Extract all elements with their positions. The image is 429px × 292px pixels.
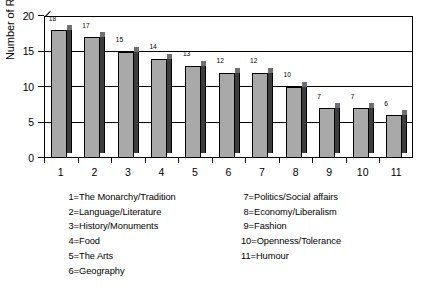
bar-front-face	[386, 115, 402, 158]
bar-top-face	[235, 68, 240, 73]
legend-left-key: 5=	[66, 249, 79, 264]
bar-11[interactable]	[386, 115, 402, 158]
bar-top-face	[268, 68, 273, 73]
chart-legend: 1=The Monarchy/Tradition2=Language/Liter…	[0, 190, 429, 280]
legend-right-key: 11=	[241, 249, 256, 264]
legend-right-key: 9=	[241, 219, 254, 234]
x-tick-label-4: 4	[145, 167, 179, 178]
bar-top-face	[167, 54, 172, 59]
bar-side-face	[402, 110, 407, 153]
legend-left-key: 6=	[66, 264, 79, 279]
bar-8[interactable]	[286, 87, 302, 158]
legend-left-item: 2=Language/Literature	[66, 205, 176, 220]
legend-right-item: 10=Openness/Tolerance	[241, 234, 341, 249]
x-tick-0	[44, 158, 45, 163]
bar-front-face	[84, 37, 100, 158]
y-tick-10	[38, 86, 44, 87]
bar-value-label-7: 12	[250, 58, 257, 65]
x-tick-9	[346, 158, 347, 163]
bar-front-face	[118, 52, 134, 159]
legend-right-text: Humour	[256, 251, 289, 261]
legend-right-item: 9=Fashion	[241, 219, 341, 234]
bar-9[interactable]	[319, 108, 335, 158]
legend-column-right: 7=Politics/Social affairs8=Economy/Liber…	[241, 190, 341, 264]
legend-right-item: 8=Economy/Liberalism	[241, 205, 341, 220]
y-tick-label-15: 15	[23, 46, 34, 57]
legend-column-left: 1=The Monarchy/Tradition2=Language/Liter…	[66, 190, 176, 278]
bar-side-face	[134, 47, 139, 154]
bar-front-face	[219, 73, 235, 158]
legend-right-text: Economy/Liberalism	[254, 207, 337, 217]
bar-top-face	[369, 103, 374, 108]
bar-side-face	[201, 61, 206, 153]
legend-right-key: 7=	[241, 190, 254, 205]
bar-value-label-2: 17	[82, 23, 89, 30]
legend-right-text: Politics/Social affairs	[254, 192, 338, 202]
bar-value-label-8: 10	[284, 72, 291, 79]
bar-top-face	[100, 32, 105, 37]
legend-left-text: Language/Literature	[79, 207, 161, 217]
legend-left-text: The Arts	[79, 251, 113, 261]
bar-3[interactable]	[118, 52, 134, 159]
legend-right-item: 11=Humour	[241, 249, 341, 264]
bar-side-face	[268, 68, 273, 153]
x-tick-label-1: 1	[44, 167, 78, 178]
bar-1[interactable]	[51, 30, 67, 158]
bar-top-face	[402, 110, 407, 115]
legend-left-text: Food	[79, 236, 100, 246]
y-tick-20	[38, 15, 44, 16]
bar-value-label-1: 18	[49, 16, 56, 23]
bar-10[interactable]	[353, 108, 369, 158]
bar-side-face	[302, 82, 307, 153]
bar-front-face	[286, 87, 302, 158]
x-tick-label-7: 7	[245, 167, 279, 178]
x-tick-label-3: 3	[111, 167, 145, 178]
x-tick-label-10: 10	[346, 167, 380, 178]
legend-left-item: 1=The Monarchy/Tradition	[66, 190, 176, 205]
x-tick-7	[279, 158, 280, 163]
x-tick-10	[379, 158, 380, 163]
bar-value-label-3: 15	[116, 37, 123, 44]
bar-6[interactable]	[219, 73, 235, 158]
legend-right-key: 8=	[241, 205, 254, 220]
x-tick-4	[178, 158, 179, 163]
clipped-caption-fragment	[0, 285, 429, 292]
bar-top-face	[201, 61, 206, 66]
x-tick-label-6: 6	[212, 167, 246, 178]
bar-top-face	[67, 25, 72, 30]
bar-top-face	[134, 47, 139, 52]
x-tick-5	[212, 158, 213, 163]
bar-value-label-5: 13	[183, 51, 190, 58]
bar-side-face	[167, 54, 172, 153]
bar-side-face	[100, 32, 105, 153]
bar-value-label-9: 7	[317, 94, 321, 101]
x-tick-2	[111, 158, 112, 163]
x-tick-3	[145, 158, 146, 163]
legend-left-key: 4=	[66, 234, 79, 249]
x-tick-label-2: 2	[78, 167, 112, 178]
legend-left-item: 4=Food	[66, 234, 176, 249]
legend-right-text: Fashion	[254, 221, 287, 231]
x-tick-label-9: 9	[312, 167, 346, 178]
bar-chart-figure: 05101520 Number of Responses 18117215314…	[0, 0, 429, 292]
bar-4[interactable]	[151, 59, 167, 158]
bar-top-face	[335, 103, 340, 108]
bar-front-face	[252, 73, 268, 158]
legend-left-text: Geography	[79, 266, 125, 276]
y-tick-15	[38, 51, 44, 52]
x-tick-6	[245, 158, 246, 163]
legend-left-key: 2=	[66, 205, 79, 220]
legend-right-text: Openness/Tolerance	[257, 236, 341, 246]
y-tick-label-20: 20	[23, 11, 34, 22]
bar-5[interactable]	[185, 66, 201, 158]
legend-left-item: 6=Geography	[66, 264, 176, 279]
y-axis-label: Number of Responses	[4, 0, 16, 60]
bar-2[interactable]	[84, 37, 100, 158]
legend-left-text: The Monarchy/Tradition	[79, 192, 176, 202]
bar-front-face	[185, 66, 201, 158]
bar-7[interactable]	[252, 73, 268, 158]
x-tick-label-5: 5	[178, 167, 212, 178]
legend-left-key: 3=	[66, 219, 79, 234]
plot-area: 05101520 Number of Responses 18117215314…	[44, 16, 413, 158]
legend-left-item: 5=The Arts	[66, 249, 176, 264]
